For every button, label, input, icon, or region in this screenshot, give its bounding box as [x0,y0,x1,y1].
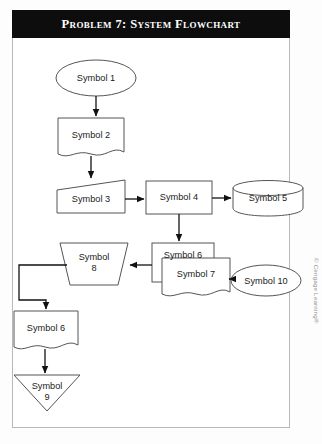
flowchart-canvas [0,0,322,444]
node-symbol-3 [57,180,125,213]
node-symbol-6-lower [14,311,78,349]
node-symbol-9 [14,375,80,411]
node-symbol-5 [233,181,303,217]
node-symbol-4 [146,181,212,214]
copyright-notice: © Cengage Learning® [313,258,320,344]
node-symbol-2 [58,118,124,156]
flowchart-page: Problem 7: System Flowchart [0,0,322,444]
node-symbol-1 [56,60,136,96]
edge-s8-s6lower [19,265,67,309]
node-symbol-8 [60,243,128,285]
node-symbol-10 [231,265,301,296]
node-symbol-7 [162,258,230,296]
